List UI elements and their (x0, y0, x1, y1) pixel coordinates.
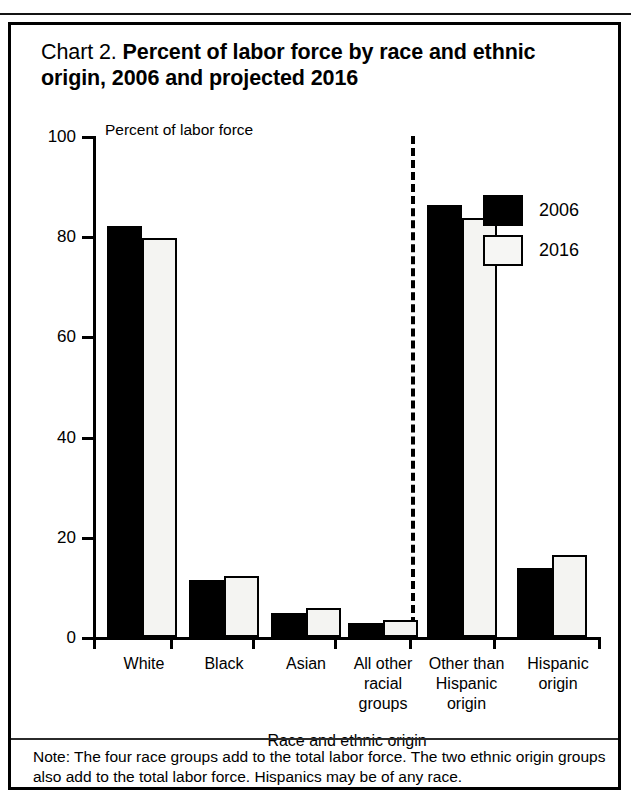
x-label-all-other-racial-groups: All other racial groups (338, 654, 428, 714)
y-tick-80: 80 (82, 236, 93, 239)
bar-asian-2016 (306, 608, 341, 637)
x-label-white: White (99, 654, 189, 674)
x-tick-2 (252, 637, 255, 649)
bar-other-than-hispanic-origin-2006 (427, 205, 462, 637)
x-label-hispanic-origin: Hispanic origin (513, 654, 603, 694)
y-axis-line (93, 136, 96, 640)
bar-white-2006 (107, 226, 142, 637)
chart-area: Percent of labor force 100 80 60 40 20 0 (11, 25, 624, 739)
y-tick-60: 60 (82, 336, 93, 339)
bar-asian-2006 (271, 613, 306, 637)
y-tick-label-80: 80 (57, 227, 76, 247)
x-tick-0 (93, 637, 96, 649)
bar-other-than-hispanic-origin-2016 (462, 218, 497, 637)
y-tick-label-0: 0 (67, 628, 76, 648)
x-tick-6 (598, 637, 601, 649)
page-top-rule (0, 13, 631, 15)
bar-hispanic-origin-2006 (517, 568, 552, 637)
y-tick-label-20: 20 (57, 528, 76, 548)
x-tick-5 (493, 637, 496, 649)
bar-all-other-racial-groups-2016 (383, 620, 418, 637)
race-ethnicity-divider (411, 136, 415, 637)
bar-black-2006 (189, 580, 224, 637)
y-tick-100: 100 (82, 136, 93, 139)
legend-item-2016: 2016 (483, 235, 579, 266)
x-tick-4 (409, 637, 412, 649)
x-label-black: Black (179, 654, 269, 674)
bar-hispanic-origin-2016 (552, 555, 587, 637)
x-label-other-than-hispanic-origin: Other than Hispanic origin (419, 654, 514, 714)
x-tick-1 (170, 637, 173, 649)
legend-label-2006: 2006 (539, 200, 579, 221)
y-tick-label-60: 60 (57, 327, 76, 347)
bar-all-other-racial-groups-2006 (348, 623, 383, 637)
legend-swatch-2016 (483, 235, 523, 266)
legend-item-2006: 2006 (483, 195, 579, 226)
y-tick-label-100: 100 (48, 127, 76, 147)
x-tick-3 (334, 637, 337, 649)
chart-note: Note: The four race groups add to the to… (33, 747, 608, 787)
legend-swatch-2006 (483, 195, 523, 226)
y-tick-0: 0 (82, 637, 93, 640)
y-tick-40: 40 (82, 437, 93, 440)
y-tick-label-40: 40 (57, 428, 76, 448)
legend-label-2016: 2016 (539, 240, 579, 261)
bar-white-2016 (142, 238, 177, 637)
note-separator-rule (11, 738, 618, 740)
y-tick-20: 20 (82, 537, 93, 540)
figure-frame: Chart 2. Percent of labor force by race … (8, 22, 621, 790)
bar-black-2016 (224, 576, 259, 637)
